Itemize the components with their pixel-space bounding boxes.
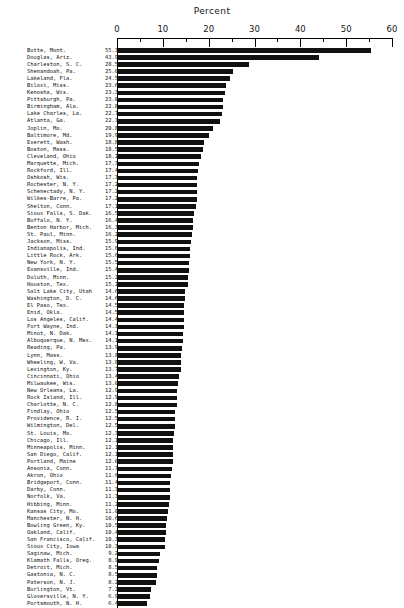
x-tick-major: [346, 38, 347, 47]
bar-row-label: St. Louis, Mo.: [27, 430, 72, 437]
bar-row-label: Jackson, Miss.: [27, 238, 72, 245]
bar: [118, 339, 183, 344]
bar-row-label: Kenosha, Wis.: [27, 89, 69, 96]
bar-row-label: Birmingham, Ala.: [27, 103, 79, 110]
x-tick-minor: [369, 38, 370, 42]
bar: [118, 133, 209, 138]
bar-row-value: 18.8: [98, 139, 118, 146]
bar: [118, 140, 204, 145]
bar-row-label: Wilmington, Del.: [27, 422, 79, 429]
bar: [118, 502, 169, 507]
bar-row-label: Buffalo, N. Y.: [27, 217, 72, 224]
bar-row-value: 11.7: [98, 465, 118, 472]
bar-row-value: 13.0: [98, 380, 118, 387]
bar-row-value: 12.8: [98, 401, 118, 408]
bar-row-label: Portland, Maine: [27, 458, 76, 465]
x-tick-label: 10: [157, 24, 168, 34]
bar-row-value: 13.8: [98, 352, 118, 359]
bar: [118, 247, 190, 252]
x-tick-minor: [186, 38, 187, 42]
bar-row-value: 15.5: [98, 259, 118, 266]
bar-row-label: Benton Harbor, Mich.: [27, 224, 92, 231]
bar: [118, 459, 173, 464]
bar-row-value: 17.2: [98, 195, 118, 202]
bar-row-label: Rockford, Ill.: [27, 167, 72, 174]
bar: [118, 119, 220, 124]
bar-row-value: 6.4: [98, 600, 118, 607]
bar: [118, 381, 178, 386]
bar-row-label: Milwaukee, Wis.: [27, 380, 76, 387]
bar: [118, 601, 147, 606]
bar-row-label: Atlanta, Ga.: [27, 117, 66, 124]
bar-row-label: Reading, Pa.: [27, 344, 66, 351]
bar: [118, 55, 319, 60]
bar-row-value: 17.3: [98, 174, 118, 181]
bar-row-label: Minneapolis, Minn.: [27, 444, 85, 451]
bar-row-value: 19.9: [98, 132, 118, 139]
bar-row-label: Houston, Tex.: [27, 281, 69, 288]
bar: [118, 374, 179, 379]
bar-row-value: 12.1: [98, 437, 118, 444]
bar-row-value: 11.4: [98, 479, 118, 486]
bar-row-value: 18.5: [98, 146, 118, 153]
bar-row-value: 8.5: [98, 571, 118, 578]
x-tick-minor: [232, 38, 233, 42]
bar-row-label: Lakeland, Fla.: [27, 75, 72, 82]
bar-row-label: Norfolk, Va.: [27, 493, 66, 500]
bar-row-value: 18.2: [98, 153, 118, 160]
bar: [118, 91, 225, 96]
bar-row-value: 12.5: [98, 422, 118, 429]
bar-row-value: 25.0: [98, 68, 118, 75]
bar-row-label: Everett, Wash.: [27, 139, 72, 146]
bar: [118, 417, 175, 422]
bar-row-value: 12.0: [98, 458, 118, 465]
bar: [118, 537, 165, 542]
bar: [118, 310, 184, 315]
bar: [118, 559, 159, 564]
bar-row-value: 12.9: [98, 387, 118, 394]
x-tick-label: 50: [341, 24, 352, 34]
x-tick-major: [255, 38, 256, 47]
bar: [118, 367, 181, 372]
bar-row-value: 10.6: [98, 515, 118, 522]
bar: [118, 495, 170, 500]
bar: [118, 523, 166, 528]
bar: [118, 197, 197, 202]
chart-axis-title-text: Percent: [194, 6, 231, 16]
bar-row-label: El Paso, Tex.: [27, 302, 69, 309]
bar: [118, 488, 170, 493]
bar: [118, 509, 168, 514]
bar-row-value: 11.2: [98, 501, 118, 508]
bar: [118, 410, 175, 415]
bar: [118, 105, 223, 110]
bar-row-label: Sioux Falls, S. Dak.: [27, 210, 92, 217]
bar: [118, 318, 184, 323]
bar-row-value: 17.2: [98, 181, 118, 188]
bar-row-label: Klamath Falls, Oreg.: [27, 557, 92, 564]
bar-row-value: 12.9: [98, 394, 118, 401]
bar-row-value: 8.5: [98, 564, 118, 571]
bar-row-label: New York, N. Y.: [27, 259, 76, 266]
bar-row-value: 10.5: [98, 522, 118, 529]
bar-row-label: Rochester, N. Y.: [27, 181, 79, 188]
bar-row-label: Sioux City, Iowa: [27, 543, 79, 550]
bar-row-label: Butte, Mont.: [27, 47, 66, 54]
chart-axis-title: Percent: [0, 6, 404, 16]
bar: [118, 481, 170, 486]
bar: [118, 467, 172, 472]
bar: [118, 353, 181, 358]
bar-row-label: Shenandoah, Pa.: [27, 68, 76, 75]
bar-row-value: 17.1: [98, 203, 118, 210]
bar-row-label: Joplin, Mo.: [27, 125, 63, 132]
bar-row-value: 15.9: [98, 238, 118, 245]
bar: [118, 190, 197, 195]
bar-row-label: Manchester, N. H.: [27, 515, 82, 522]
bar-row-label: Oshkosh, Wis.: [27, 174, 69, 181]
bar: [118, 240, 191, 245]
bar-row-value: 17.4: [98, 167, 118, 174]
bar-row-label: Chicago, Ill.: [27, 437, 69, 444]
bar-row-value: 22.8: [98, 103, 118, 110]
bar-row-label: Enid, Okla.: [27, 309, 63, 316]
bar-row-value: 11.6: [98, 472, 118, 479]
